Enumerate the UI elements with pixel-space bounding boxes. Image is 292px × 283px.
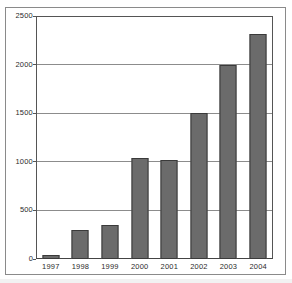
x-tick-label-2000: 2000 [125,262,155,272]
bar-slot-2004 [243,16,273,259]
bar-1997[interactable] [42,255,59,259]
x-tick-label-1997: 1997 [36,262,66,272]
bar-chart-figure: 2500 2000 1500 1000 500 0 [0,0,292,283]
bar-slot-2002 [184,16,214,259]
x-tick-label-1998: 1998 [66,262,96,272]
x-axis-tick-labels: 1997 1998 1999 2000 2001 2002 2003 2004 [36,262,273,276]
x-tick-label-2003: 2003 [214,262,244,272]
bar-1999[interactable] [101,225,118,259]
y-axis-tick-labels: 2500 2000 1500 1000 500 0 [0,0,33,283]
bar-2002[interactable] [190,113,207,259]
bar-2004[interactable] [250,34,267,259]
bar-2003[interactable] [220,65,237,259]
bar-slot-2003 [214,16,244,259]
bar-slot-1998 [66,16,96,259]
x-tick-label-2002: 2002 [184,262,214,272]
bar-2001[interactable] [161,160,178,259]
scan-edge-artifact [0,279,292,283]
x-tick-label-2004: 2004 [243,262,273,272]
bar-2000[interactable] [131,158,148,259]
bars-layer [36,16,273,259]
y-tick-label-1000: 1000 [16,157,34,166]
y-tick-label-1500: 1500 [16,108,34,117]
bar-slot-2001 [155,16,185,259]
x-tick-label-2001: 2001 [155,262,185,272]
y-tick-label-2000: 2000 [16,60,34,69]
y-tick-label-2500: 2500 [16,11,34,20]
y-tick-mark-0 [33,259,36,260]
bar-1998[interactable] [72,230,89,259]
bar-slot-1997 [36,16,66,259]
bar-slot-2000 [125,16,155,259]
y-tick-label-500: 500 [20,205,33,214]
x-tick-label-1999: 1999 [95,262,125,272]
bar-slot-1999 [95,16,125,259]
